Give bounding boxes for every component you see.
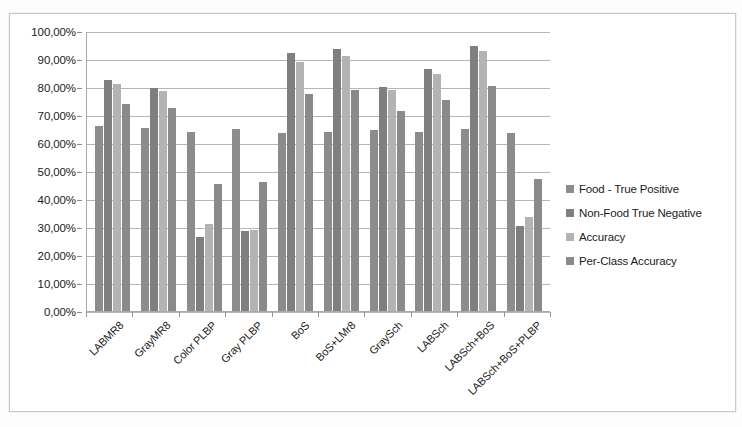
bars-layer	[87, 32, 550, 311]
y-axis-tick-label: 80,00%	[38, 82, 76, 94]
y-axis-tick-mark	[77, 88, 82, 89]
legend-swatch-icon	[566, 209, 574, 217]
x-axis-label-bos: BoS	[289, 319, 312, 342]
bar[interactable]	[205, 224, 213, 311]
legend-label: Per-Class Accuracy	[579, 255, 677, 267]
bar[interactable]	[324, 132, 332, 311]
x-axis-label-labsch: LABSch	[415, 319, 451, 355]
bar[interactable]	[250, 230, 258, 311]
bar[interactable]	[214, 184, 222, 311]
legend-label: Non-Food True Negative	[579, 207, 702, 219]
y-axis-tick-mark	[77, 228, 82, 229]
bar[interactable]	[333, 49, 341, 311]
x-axis-label-bos-lmr8: BoS+LMr8	[313, 319, 357, 363]
bar-group	[319, 32, 365, 311]
bar[interactable]	[488, 86, 496, 311]
bar[interactable]	[287, 53, 295, 311]
bar[interactable]	[232, 129, 240, 311]
bar[interactable]	[278, 133, 286, 311]
legend-swatch-icon	[566, 233, 574, 241]
chart-legend: Food - True PositiveNon-Food True Negati…	[566, 177, 736, 273]
bar[interactable]	[516, 226, 524, 311]
bar[interactable]	[150, 88, 158, 311]
bar-group	[90, 32, 136, 311]
bar[interactable]	[370, 130, 378, 311]
bar[interactable]	[95, 126, 103, 311]
bar[interactable]	[305, 94, 313, 311]
bar[interactable]	[113, 84, 121, 311]
legend-item[interactable]: Per-Class Accuracy	[566, 249, 736, 273]
bar[interactable]	[122, 104, 130, 311]
legend-item[interactable]: Food - True Positive	[566, 177, 736, 201]
bar[interactable]	[534, 179, 542, 311]
bar[interactable]	[415, 132, 423, 311]
y-axis: 100,00%90,00%80,00%70,00%60,00%50,00%40,…	[10, 32, 82, 313]
plot-area	[86, 32, 550, 312]
bar[interactable]	[388, 90, 396, 311]
y-axis-tick-mark	[77, 256, 82, 257]
bar-group	[136, 32, 182, 311]
y-axis-tick-label: 70,00%	[38, 110, 76, 122]
bar[interactable]	[525, 217, 533, 311]
bar-group	[181, 32, 227, 311]
bar-group	[501, 32, 547, 311]
bar-group	[456, 32, 502, 311]
bar[interactable]	[187, 132, 195, 311]
chart-frame: 100,00%90,00%80,00%70,00%60,00%50,00%40,…	[9, 13, 736, 412]
legend-swatch-icon	[566, 257, 574, 265]
bar-group	[227, 32, 273, 311]
bar[interactable]	[351, 90, 359, 311]
y-axis-tick-label: 50,00%	[38, 166, 76, 178]
y-axis-tick-mark	[77, 200, 82, 201]
y-axis-tick-mark	[77, 116, 82, 117]
x-axis-labels: LABMR8GrayMR8Color PLBPGray PLBPBoSBoS+L…	[86, 317, 550, 417]
legend-label: Accuracy	[579, 231, 625, 243]
y-axis-tick-mark	[77, 60, 82, 61]
y-axis-tick-mark	[77, 144, 82, 145]
x-axis-label-graymr8: GrayMR8	[132, 319, 173, 360]
bar-group	[410, 32, 456, 311]
bar[interactable]	[507, 133, 515, 311]
x-axis-label-gray-plbp: Gray PLBP	[218, 319, 264, 365]
x-axis-tick-mark	[550, 312, 551, 317]
bar[interactable]	[433, 74, 441, 311]
bar[interactable]	[104, 80, 112, 311]
bar[interactable]	[141, 128, 149, 311]
bar[interactable]	[196, 237, 204, 311]
y-axis-tick-mark	[77, 32, 82, 33]
legend-swatch-icon	[566, 185, 574, 193]
y-axis-tick-mark	[77, 312, 82, 313]
bar[interactable]	[379, 87, 387, 311]
x-axis-label-graysch: GraySch	[367, 319, 405, 357]
bar[interactable]	[168, 108, 176, 311]
bar-group	[364, 32, 410, 311]
x-axis-label-labmr8: LABMR8	[87, 319, 126, 358]
y-axis-tick-label: 10,00%	[38, 278, 76, 290]
y-axis-tick-mark	[77, 284, 82, 285]
bar[interactable]	[342, 56, 350, 311]
bar[interactable]	[479, 51, 487, 311]
y-axis-tick-label: 30,00%	[38, 222, 76, 234]
legend-item[interactable]: Non-Food True Negative	[566, 201, 736, 225]
y-axis-tick-label: 60,00%	[38, 138, 76, 150]
y-axis-tick-label: 100,00%	[31, 26, 76, 38]
bar[interactable]	[424, 69, 432, 311]
y-axis-tick-label: 90,00%	[38, 54, 76, 66]
chart-screenshot: 100,00%90,00%80,00%70,00%60,00%50,00%40,…	[0, 0, 742, 427]
y-axis-tick-mark	[77, 172, 82, 173]
x-axis-label-color-plbp: Color PLBP	[171, 319, 219, 367]
bar-group	[273, 32, 319, 311]
bar[interactable]	[461, 129, 469, 311]
bar[interactable]	[241, 231, 249, 311]
bar[interactable]	[397, 111, 405, 311]
y-axis-tick-label: 0,00%	[44, 306, 76, 318]
y-axis-tick-label: 40,00%	[38, 194, 76, 206]
bar[interactable]	[296, 62, 304, 311]
y-axis-tick-label: 20,00%	[38, 250, 76, 262]
legend-item[interactable]: Accuracy	[566, 225, 736, 249]
bar[interactable]	[159, 91, 167, 311]
bar[interactable]	[442, 100, 450, 311]
legend-label: Food - True Positive	[579, 183, 679, 195]
bar[interactable]	[470, 46, 478, 311]
bar[interactable]	[259, 182, 267, 311]
